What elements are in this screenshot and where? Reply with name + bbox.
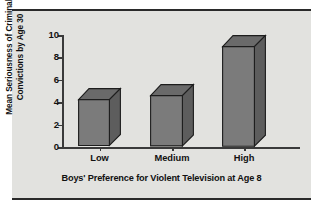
y-tick-label: 10 xyxy=(48,29,59,40)
y-axis-title: Mean Seriousness of Criminal Convictions… xyxy=(4,0,34,122)
bar-shape-high xyxy=(222,35,266,147)
bar-shape-medium xyxy=(150,84,194,147)
bar-front-face xyxy=(223,46,255,146)
bar-medium xyxy=(150,84,194,147)
bottom-rule xyxy=(12,198,311,200)
x-tick-mark xyxy=(244,147,246,151)
x-axis-line xyxy=(62,147,300,149)
bar-front-face xyxy=(151,96,183,146)
x-axis-title: Boys' Preference for Violent Television … xyxy=(12,173,311,183)
y-tick-label: 2 xyxy=(54,119,59,130)
bar-shape-low xyxy=(78,88,121,146)
plot-area: 0246810 LowMediumHigh xyxy=(62,35,300,147)
y-tick-label: 0 xyxy=(54,141,59,152)
y-tick-label: 8 xyxy=(54,51,59,62)
y-tick-label: 4 xyxy=(54,96,59,107)
bar-high xyxy=(222,35,266,147)
category-label-low: Low xyxy=(62,153,137,163)
x-tick-mark xyxy=(172,147,174,151)
y-axis-line xyxy=(62,35,64,148)
category-label-high: High xyxy=(206,153,282,163)
category-label-medium: Medium xyxy=(134,153,210,163)
bar-low xyxy=(78,88,121,146)
bar-side-face xyxy=(182,85,193,146)
x-tick-mark xyxy=(100,147,102,151)
figure-plate: Mean Seriousness of Criminal Convictions… xyxy=(0,0,323,215)
bar-side-face xyxy=(254,35,265,146)
bar-front-face xyxy=(79,100,110,146)
y-axis-title-line1: Mean Seriousness of Criminal xyxy=(4,0,14,115)
y-axis-title-line2: Convictions by Age 30 xyxy=(15,0,26,122)
y-tick-label: 6 xyxy=(54,74,59,85)
